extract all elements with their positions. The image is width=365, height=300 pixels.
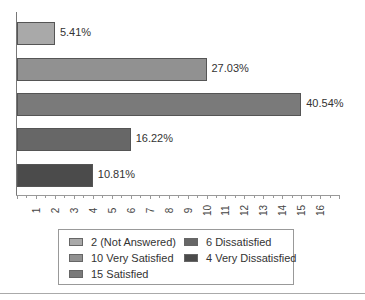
x-tick-label: 9 [182,204,193,218]
legend-label: 15 Satisfied [91,268,148,280]
x-tick-label: 16 [315,204,326,218]
x-tick [64,196,65,198]
x-tick [140,196,141,198]
x-tick-label: 5 [106,204,117,218]
x-tick-label: 15 [296,204,307,218]
legend-item: 15 Satisfied [69,268,148,280]
legend-label: 2 (Not Answered) [91,236,176,248]
x-tick [311,196,312,198]
x-tick-label: 11 [220,204,231,218]
legend-swatch [184,254,198,262]
x-tick [17,196,18,199]
x-tick [169,196,170,199]
legend-label: 10 Very Satisfied [91,252,174,264]
divider [0,293,365,294]
bar-value-label: 40.54% [306,97,343,109]
x-tick [254,196,255,198]
bar-value-label: 16.22% [136,132,173,144]
legend-label: 6 Dissatisfied [206,236,271,248]
x-tick [339,196,340,199]
bar-dissatisfied [17,128,131,151]
x-tick-label: 6 [125,204,136,218]
x-tick-label: 12 [239,204,250,218]
x-tick [83,196,84,198]
x-tick [26,196,27,198]
x-tick [112,196,113,199]
x-tick [197,196,198,198]
x-tick [244,196,245,199]
x-tick-label: 3 [68,204,79,218]
x-tick-label: 4 [87,204,98,218]
x-tick [188,196,189,199]
bar-value-label: 5.41% [60,26,91,38]
x-tick [150,196,151,199]
bar-value-label: 27.03% [212,62,249,74]
legend-swatch [69,270,83,278]
legend-item: 4 Very Dissatisfied [184,252,296,264]
x-tick [216,196,217,198]
bar-satisfied [17,93,301,116]
x-tick-label: 10 [201,204,212,218]
legend-item: 2 (Not Answered) [69,236,176,248]
x-tick [207,196,208,199]
x-tick [292,196,293,198]
x-tick [121,196,122,198]
bar-not-answered [17,22,55,45]
legend-item: 10 Very Satisfied [69,252,174,264]
x-tick [159,196,160,198]
legend-swatch [69,238,83,246]
x-tick [320,196,321,199]
x-tick-label: 8 [163,204,174,218]
x-tick [55,196,56,199]
bar-very-satisfied [17,58,207,81]
x-tick-label: 1 [30,204,41,218]
x-tick [282,196,283,199]
x-tick-label: 2 [49,204,60,218]
legend-label: 4 Very Dissatisfied [206,252,296,264]
x-tick-label: 14 [277,204,288,218]
x-tick [235,196,236,198]
x-tick [263,196,264,199]
x-tick [330,196,331,198]
x-tick [273,196,274,198]
x-tick [225,196,226,199]
x-tick-label: 7 [144,204,155,218]
x-tick [93,196,94,199]
x-tick [301,196,302,199]
x-tick-label: 13 [258,204,269,218]
legend-swatch [184,238,198,246]
x-tick [45,196,46,198]
x-tick [102,196,103,198]
bar-value-label: 10.81% [98,168,135,180]
x-tick [74,196,75,199]
x-tick [36,196,37,199]
bar-very-dissatisfied [17,164,93,187]
legend-swatch [69,254,83,262]
x-tick [131,196,132,199]
x-tick [178,196,179,198]
legend: 2 (Not Answered)10 Very Satisfied15 Sati… [58,229,294,285]
legend-item: 6 Dissatisfied [184,236,271,248]
